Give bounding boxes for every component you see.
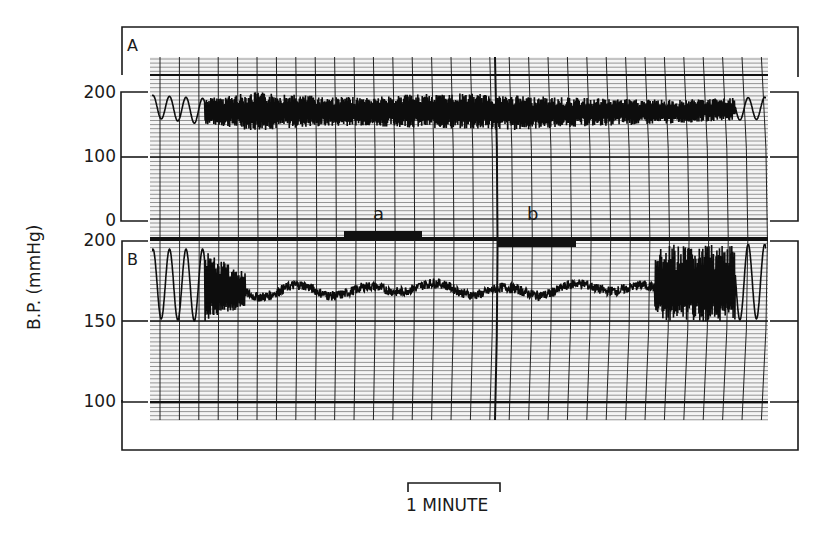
marker-label-b: b	[527, 205, 538, 223]
time-scale-bar	[408, 483, 500, 492]
panel-b-label: B	[127, 252, 138, 268]
marker-bar-b	[498, 239, 576, 247]
panel-a-tick-0: 0	[56, 212, 116, 229]
y-axis-label: B.P. (mmHg)	[24, 225, 44, 330]
panel-a-tick-200: 200	[56, 84, 116, 101]
panel-a-tick-100: 100	[56, 148, 116, 165]
panel-b-tick-150: 150	[56, 313, 116, 330]
marker-bar-a	[344, 231, 422, 239]
marker-label-a: a	[373, 205, 384, 223]
panel-b-tick-200: 200	[56, 232, 116, 249]
time-scale-label: 1 MINUTE	[406, 497, 488, 514]
panel-a-label: A	[127, 38, 138, 54]
bp-chart-recording	[0, 0, 831, 545]
panel-b-tick-100: 100	[56, 393, 116, 410]
